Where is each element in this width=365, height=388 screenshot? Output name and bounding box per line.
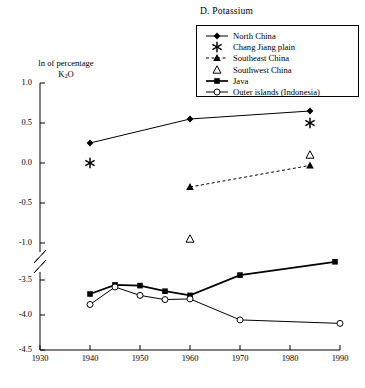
- data-point: [162, 297, 168, 303]
- series-java: [87, 259, 338, 298]
- series-southeast-china: [186, 161, 314, 190]
- x-tick-label: 1980: [270, 355, 310, 363]
- y-tick-label: 0.0: [2, 159, 32, 167]
- series-southwest-china: [186, 151, 314, 242]
- y-tick-label: 0.5: [2, 119, 32, 127]
- x-tick-label: 1990: [320, 355, 360, 363]
- data-point: [186, 235, 194, 242]
- data-point: [307, 108, 314, 115]
- series-line: [90, 262, 335, 296]
- data-point: [87, 140, 94, 147]
- data-point: [332, 259, 338, 265]
- series-chang-jiang-plain: [85, 118, 314, 168]
- data-point: [306, 161, 314, 168]
- data-point: [187, 296, 193, 302]
- y-tick-label: -4.5: [2, 346, 32, 354]
- data-point: [237, 272, 243, 278]
- series-line: [90, 111, 310, 143]
- plot-area: [0, 0, 365, 388]
- x-tick-label: 1970: [220, 355, 260, 363]
- y-tick-label: 1.0: [2, 79, 32, 87]
- x-tick-label: 1930: [20, 355, 60, 363]
- data-point: [237, 317, 243, 323]
- series-north-china: [87, 108, 314, 147]
- data-point: [137, 292, 143, 298]
- data-point: [305, 118, 314, 128]
- y-tick-label: -1.0: [2, 239, 32, 247]
- data-point: [187, 116, 194, 123]
- data-point: [112, 284, 118, 290]
- series-line: [190, 165, 310, 187]
- data-point: [162, 288, 168, 294]
- data-point: [137, 283, 143, 289]
- x-tick-label: 1960: [170, 355, 210, 363]
- data-point: [85, 158, 94, 168]
- data-point: [337, 320, 343, 326]
- data-point: [87, 291, 93, 297]
- series-outer-islands-indonesia: [87, 284, 343, 326]
- y-tick-label: -3.5: [2, 276, 32, 284]
- potassium-chart: D. Potassium ln of percentage K2O North …: [0, 0, 365, 388]
- y-tick-label: -0.5: [2, 199, 32, 207]
- y-tick-label: -4.0: [2, 311, 32, 319]
- x-tick-label: 1950: [120, 355, 160, 363]
- x-tick-label: 1940: [70, 355, 110, 363]
- series-line: [90, 287, 340, 323]
- data-point: [306, 151, 314, 158]
- data-point: [87, 302, 93, 308]
